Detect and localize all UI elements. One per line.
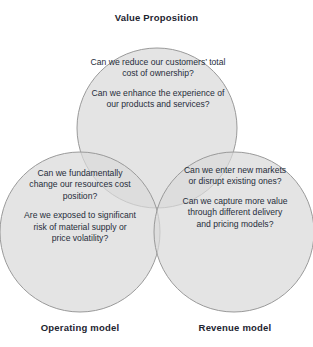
venn-diagram: Value Proposition Can we reduce our cust… — [0, 0, 313, 347]
venn-label-operating-model: Operating model — [10, 322, 150, 333]
venn-text-operating-model-p2: Are we exposed to significant risk of ma… — [24, 210, 136, 244]
venn-text-value-proposition-p1: Can we reduce our customers’ total cost … — [88, 57, 228, 80]
venn-text-revenue-model: Can we enter new markets or disrupt exis… — [180, 165, 290, 230]
venn-text-revenue-model-p2: Can we capture more value through differ… — [180, 196, 290, 230]
venn-text-value-proposition-p2: Can we enhance the experience of our pro… — [88, 88, 228, 111]
venn-label-revenue-model: Revenue model — [165, 322, 305, 333]
venn-text-operating-model: Can we fundamentally change our resource… — [24, 168, 136, 244]
venn-text-revenue-model-p1: Can we enter new markets or disrupt exis… — [180, 165, 290, 188]
venn-text-value-proposition: Can we reduce our customers’ total cost … — [88, 57, 228, 111]
venn-text-operating-model-p1: Can we fundamentally change our resource… — [24, 168, 136, 202]
